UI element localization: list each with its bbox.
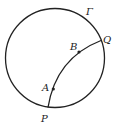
- circle-gamma: [6, 9, 105, 108]
- point-a-dot: [52, 87, 55, 90]
- label-a: A: [41, 82, 49, 93]
- point-b-dot: [77, 50, 80, 53]
- label-b: B: [69, 41, 77, 52]
- label-gamma: Γ: [85, 6, 94, 17]
- label-q: Q: [103, 34, 111, 45]
- circle-diagram: Γ Q B A P: [0, 0, 120, 132]
- label-p: P: [40, 113, 48, 124]
